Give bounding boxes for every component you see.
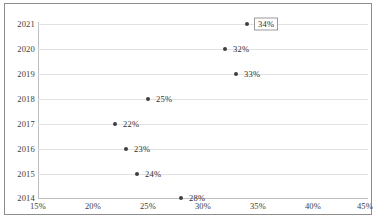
data-point-2019[interactable] — [234, 72, 238, 76]
x-tick-25: 25% — [140, 201, 156, 211]
gridline-2016 — [38, 149, 368, 150]
x-tick-35: 35% — [250, 201, 266, 211]
y-tick-2019: 2019 — [17, 69, 35, 79]
data-label-2018[interactable]: 25% — [156, 94, 172, 104]
y-tick-2020: 2020 — [17, 44, 35, 54]
data-point-2021[interactable] — [245, 22, 249, 26]
x-tick-20: 20% — [85, 201, 101, 211]
data-point-2016[interactable] — [124, 147, 128, 151]
data-point-2017[interactable] — [113, 122, 117, 126]
gridline-2018 — [38, 99, 368, 100]
data-point-2015[interactable] — [135, 172, 139, 176]
data-label-2016[interactable]: 23% — [134, 144, 150, 154]
data-label-2021[interactable]: 34% — [254, 18, 278, 31]
x-tick-30: 30% — [195, 201, 211, 211]
data-label-2015[interactable]: 24% — [145, 169, 161, 179]
data-label-2019[interactable]: 33% — [244, 69, 260, 79]
x-tick-45: 45% — [357, 201, 373, 211]
x-tick-40: 40% — [305, 201, 321, 211]
y-tick-2021: 2021 — [17, 19, 35, 29]
data-label-2020[interactable]: 32% — [233, 44, 249, 54]
x-tick-15: 15% — [30, 201, 46, 211]
data-label-2017[interactable]: 22% — [123, 119, 139, 129]
gridline-2021 — [38, 24, 368, 25]
y-tick-2016: 2016 — [17, 144, 35, 154]
data-point-2014[interactable] — [179, 196, 183, 200]
y-tick-2018: 2018 — [17, 94, 35, 104]
plot-area: 34% 32% 33% 25% 22% 23% 24% 28% — [38, 22, 368, 198]
gridline-2017 — [38, 124, 368, 125]
data-point-2020[interactable] — [223, 47, 227, 51]
gridline-2015 — [38, 174, 368, 175]
data-point-2018[interactable] — [146, 97, 150, 101]
y-axis-tick-labels: 2021 2020 2019 2018 2017 2016 2015 2014 — [5, 4, 35, 223]
y-tick-2015: 2015 — [17, 169, 35, 179]
y-tick-2017: 2017 — [17, 119, 35, 129]
gridline-2020 — [38, 49, 368, 50]
gridline-2019 — [38, 74, 368, 75]
chart-frame: 2021 2020 2019 2018 2017 2016 2015 2014 … — [4, 3, 372, 215]
